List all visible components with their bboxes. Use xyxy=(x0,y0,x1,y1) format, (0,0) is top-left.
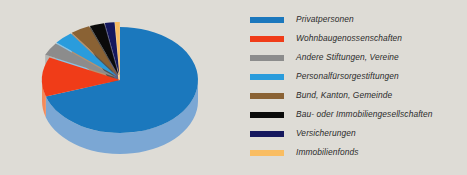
legend-item-label: Andere Stiftungen, Vereine xyxy=(296,53,399,61)
legend-item[interactable]: Bund, Kanton, Gemeinde xyxy=(250,86,465,105)
legend-item-label: Personalfürsorgestiftungen xyxy=(296,72,399,80)
legend-item[interactable]: Bau- oder Immobiliengesellschaften xyxy=(250,105,465,124)
legend-item[interactable]: Immobilienfonds xyxy=(250,143,465,162)
legend-item-label: Immobilienfonds xyxy=(296,148,358,156)
legend-item[interactable]: Personalfürsorgestiftungen xyxy=(250,67,465,86)
legend-item[interactable]: Wohnbaugenossenschaften xyxy=(250,29,465,48)
legend-item-label: Bund, Kanton, Gemeinde xyxy=(296,91,392,99)
legend-color-swatch xyxy=(250,17,284,23)
legend-item[interactable]: Privatpersonen xyxy=(250,10,465,29)
pie-slice-tops xyxy=(42,22,198,133)
legend-color-swatch xyxy=(250,112,284,118)
pie-chart-plot-area xyxy=(8,8,233,168)
legend-item-label: Bau- oder Immobiliengesellschaften xyxy=(296,110,433,118)
legend-item[interactable]: Andere Stiftungen, Vereine xyxy=(250,48,465,67)
legend-color-swatch xyxy=(250,74,284,80)
legend-item-label: Wohnbaugenossenschaften xyxy=(296,34,402,42)
pie-chart-svg xyxy=(8,8,233,168)
legend-color-swatch xyxy=(250,150,284,156)
legend-color-swatch xyxy=(250,93,284,99)
pie-chart-figure: PrivatpersonenWohnbaugenossenschaftenAnd… xyxy=(0,0,467,175)
legend-color-swatch xyxy=(250,131,284,137)
legend-item-label: Privatpersonen xyxy=(296,15,354,23)
chart-legend: PrivatpersonenWohnbaugenossenschaftenAnd… xyxy=(250,10,465,162)
legend-item[interactable]: Versicherungen xyxy=(250,124,465,143)
legend-color-swatch xyxy=(250,36,284,42)
legend-color-swatch xyxy=(250,55,284,61)
legend-item-label: Versicherungen xyxy=(296,129,356,137)
